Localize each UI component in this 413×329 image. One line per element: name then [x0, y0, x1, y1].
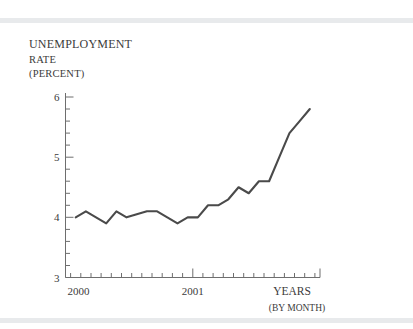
x-axis-caption: YEARS: [273, 285, 311, 297]
y-tick-label: 3: [54, 272, 60, 284]
x-tick-labels-group: 20002001: [68, 285, 204, 297]
x-tick-label: 2000: [68, 285, 91, 297]
axes-group: [66, 93, 321, 278]
y-tick-label: 6: [54, 91, 60, 103]
line-chart-plot: 3456 20002001 YEARS (BY MONTH): [0, 23, 413, 318]
y-tick-label: 5: [54, 151, 60, 163]
x-tick-label: 2001: [182, 285, 204, 297]
unemployment-rate-line: [76, 109, 310, 223]
bottom-divider-rule: [0, 318, 413, 323]
x-ticks-group: [66, 269, 321, 278]
x-axis-subcaption: (BY MONTH): [269, 303, 325, 314]
y-tick-labels-group: 3456: [54, 91, 60, 284]
y-tick-label: 4: [54, 211, 60, 223]
chart-area: UNEMPLOYMENT RATE (PERCENT) 3456 2000200…: [0, 23, 413, 318]
figure-container: UNEMPLOYMENT RATE (PERCENT) 3456 2000200…: [0, 0, 413, 329]
y-ticks-group: [66, 97, 74, 278]
